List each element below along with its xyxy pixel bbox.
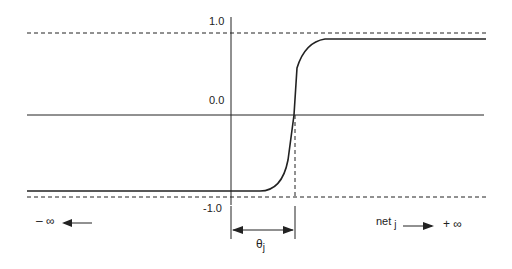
right-arrowhead <box>423 222 434 230</box>
negative-infinity-label: – ∞ <box>36 214 55 228</box>
positive-infinity-label: + ∞ <box>443 217 462 231</box>
theta-symbol: θ <box>256 237 263 251</box>
net-text: net <box>376 215 391 227</box>
theta-arrowhead-right <box>283 226 294 234</box>
y-label-bottom: -1.0 <box>203 202 222 214</box>
theta-arrowhead-left <box>232 226 243 234</box>
net-label: netj <box>376 215 397 230</box>
y-label-top: 1.0 <box>209 15 224 27</box>
net-subscript: j <box>394 219 396 230</box>
theta-label: θj <box>256 237 265 253</box>
theta-subscript: j <box>263 242 265 253</box>
sigmoid-diagram <box>0 0 512 269</box>
y-label-zero: 0.0 <box>209 94 224 106</box>
left-arrowhead <box>62 219 72 227</box>
